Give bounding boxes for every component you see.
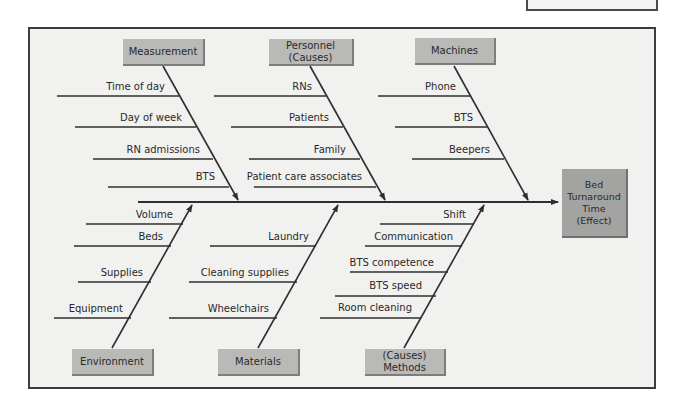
cause-label: Day of week <box>120 112 182 123</box>
cause-label: BTS speed <box>369 280 422 291</box>
category-box-materials: Materials <box>218 349 300 376</box>
cause-label: BTS <box>454 112 473 123</box>
cause-label: RN admissions <box>127 144 200 155</box>
bone-methods <box>404 205 484 348</box>
category-box-methods: (Causes) Methods <box>365 349 446 376</box>
cause-label: BTS competence <box>350 257 434 268</box>
cause-label: Time of day <box>106 81 165 92</box>
cause-label: Room cleaning <box>338 302 412 313</box>
cause-label: Volume <box>136 209 173 220</box>
cause-label: Beepers <box>449 144 490 155</box>
cause-label: Supplies <box>101 267 143 278</box>
cause-label: Shift <box>443 209 466 220</box>
cause-label: Wheelchairs <box>208 303 269 314</box>
cause-label: Beds <box>138 231 163 242</box>
cause-label: Phone <box>425 81 456 92</box>
category-box-personnel: Personnel (Causes) <box>269 39 354 66</box>
effect-box: Bed Turnaround Time (Effect) <box>562 169 628 238</box>
cause-label: Equipment <box>69 303 123 314</box>
cause-label: Patients <box>289 112 329 123</box>
cause-label: BTS <box>196 171 215 182</box>
category-box-measurement: Measurement <box>123 39 205 66</box>
cause-label: Family <box>314 144 346 155</box>
category-box-machines: Machines <box>415 38 496 65</box>
cause-label: Laundry <box>268 231 309 242</box>
cause-label: Communication <box>374 231 453 242</box>
bone-machines <box>454 66 528 200</box>
cause-label: Cleaning supplies <box>201 267 289 278</box>
cause-label: RNs <box>292 81 312 92</box>
cause-label: Patient care associates <box>247 171 362 182</box>
category-box-environment: Environment <box>72 349 154 376</box>
